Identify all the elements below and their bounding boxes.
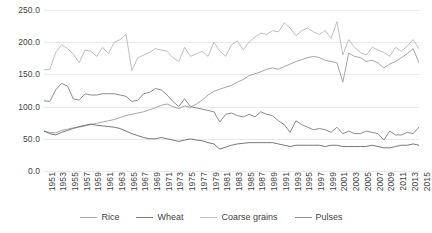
x-axis-tick-label: 1999 <box>329 172 338 191</box>
series-line-pulses <box>44 83 419 140</box>
x-axis-tick-label: 1989 <box>270 172 279 191</box>
x-axis-tick-label: 2007 <box>376 172 385 191</box>
legend-item-wheat[interactable]: Wheat <box>136 213 183 222</box>
x-axis: 1951195319551957195919611963196519671969… <box>44 172 419 204</box>
y-axis-tick-label: 50.0 <box>23 135 40 144</box>
x-axis-tick-label: 1957 <box>83 172 92 191</box>
series-line-wheat <box>44 124 419 149</box>
x-axis-tick-label: 1959 <box>94 172 103 191</box>
series-container <box>44 10 419 171</box>
legend-swatch-icon <box>80 217 97 218</box>
x-axis-tick-label: 2013 <box>411 172 420 191</box>
legend-swatch-icon <box>200 217 217 218</box>
legend-swatch-icon <box>136 217 153 218</box>
legend-label: Coarse grains <box>221 213 277 222</box>
x-axis-tick-label: 1997 <box>317 172 326 191</box>
x-axis-tick-label: 1953 <box>59 172 68 191</box>
y-axis-tick-label: 200.0 <box>18 38 40 47</box>
x-axis-tick-label: 2009 <box>387 172 396 191</box>
x-axis-tick-label: 1993 <box>294 172 303 191</box>
y-axis-tick-label: 100.0 <box>18 102 40 111</box>
series-line-rice <box>44 49 419 133</box>
legend-item-coarse-grains[interactable]: Coarse grains <box>200 213 277 222</box>
x-axis-tick-label: 2005 <box>364 172 373 191</box>
x-axis-tick-label: 2001 <box>340 172 349 191</box>
y-axis-tick-label: 0.0 <box>28 167 40 176</box>
y-axis-tick-label: 150.0 <box>18 70 40 79</box>
x-axis-tick-label: 1979 <box>212 172 221 191</box>
x-axis-tick-label: 1981 <box>223 172 232 191</box>
x-axis-tick-label: 1965 <box>130 172 139 191</box>
x-axis-tick-label: 1963 <box>118 172 127 191</box>
legend-label: Wheat <box>157 213 183 222</box>
x-axis-tick-label: 1969 <box>153 172 162 191</box>
x-axis-tick-label: 1975 <box>188 172 197 191</box>
x-axis-tick-label: 1977 <box>200 172 209 191</box>
x-axis-tick-label: 2011 <box>399 172 408 191</box>
legend-swatch-icon <box>295 217 312 218</box>
chart-legend: RiceWheatCoarse grainsPulses <box>0 207 423 227</box>
legend-label: Rice <box>101 213 119 222</box>
x-axis-tick-label: 1951 <box>48 172 57 191</box>
legend-label: Pulses <box>316 213 343 222</box>
legend-item-rice[interactable]: Rice <box>80 213 119 222</box>
y-axis: 0.050.0100.0150.0200.0250.0 <box>0 0 40 233</box>
series-line-coarse-grains <box>44 22 419 71</box>
x-axis-tick-label: 1967 <box>141 172 150 191</box>
x-axis-tick-label: 2015 <box>423 172 432 191</box>
x-axis-tick-label: 1955 <box>71 172 80 191</box>
x-axis-tick-label: 1985 <box>247 172 256 191</box>
x-axis-tick-label: 1983 <box>235 172 244 191</box>
plot-area <box>44 10 419 171</box>
x-axis-tick-label: 1961 <box>106 172 115 191</box>
x-axis-tick-label: 1987 <box>258 172 267 191</box>
x-axis-tick-label: 1971 <box>165 172 174 191</box>
x-axis-tick-label: 1991 <box>282 172 291 191</box>
legend-item-pulses[interactable]: Pulses <box>295 213 343 222</box>
x-axis-tick-label: 1973 <box>176 172 185 191</box>
y-axis-tick-label: 250.0 <box>18 6 40 15</box>
x-axis-tick-label: 2003 <box>352 172 361 191</box>
x-axis-tick-label: 1995 <box>305 172 314 191</box>
